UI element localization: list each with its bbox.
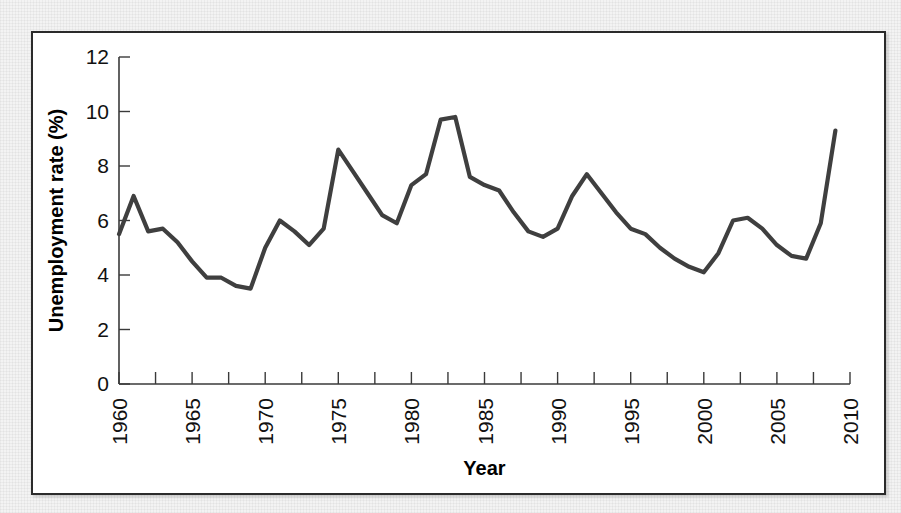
y-axis-title: Unemployment rate (%) <box>45 109 67 332</box>
x-axis-tick-label: 2010 <box>839 398 862 445</box>
data-series-line-0 <box>119 117 835 289</box>
x-axis-title: Year <box>463 457 505 479</box>
x-axis-tick-label: 1985 <box>474 398 497 445</box>
chart-plot-area: 0246810121960196519701975198019851990199… <box>33 33 884 493</box>
unemployment-rate-line-chart: 0246810121960196519701975198019851990199… <box>33 33 884 493</box>
y-axis-tick-label: 4 <box>97 263 109 286</box>
x-axis-tick-label: 1970 <box>254 398 277 445</box>
figure-frame: 0246810121960196519701975198019851990199… <box>31 31 886 495</box>
y-axis-tick-label: 0 <box>97 372 109 395</box>
y-axis-tick-label: 8 <box>97 154 109 177</box>
y-axis-tick-label: 12 <box>86 45 109 68</box>
x-axis-tick-label: 1990 <box>547 398 570 445</box>
x-axis-tick-label: 2000 <box>693 398 716 445</box>
x-axis-tick-label: 1965 <box>181 398 204 445</box>
y-axis-tick-label: 10 <box>86 100 109 123</box>
y-axis-tick-label: 6 <box>97 209 109 232</box>
y-axis-tick-label: 2 <box>97 318 109 341</box>
x-axis-tick-label: 1995 <box>620 398 643 445</box>
x-axis-tick-label: 1975 <box>327 398 350 445</box>
x-axis-tick-label: 2005 <box>766 398 789 445</box>
x-axis-tick-label: 1980 <box>400 398 423 445</box>
x-axis-tick-label: 1960 <box>108 398 131 445</box>
